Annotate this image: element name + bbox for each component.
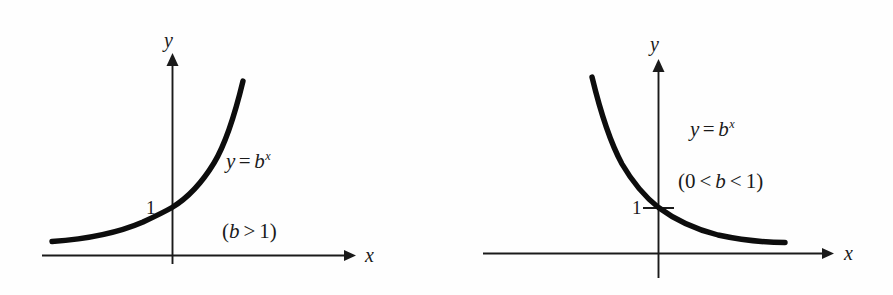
equation-lhs-left: y — [226, 149, 236, 173]
x-axis-arrowhead-right — [822, 248, 834, 259]
condition-operator1-right: < — [696, 169, 716, 193]
y-axis-label-right: y — [650, 34, 659, 54]
graph-svg-left — [0, 0, 446, 295]
x-axis-label-right: x — [844, 243, 853, 263]
y-intercept-tick-label-left: 1 — [146, 198, 156, 217]
condition-lower-bound-right: 0 — [685, 169, 696, 193]
condition-operator-left: > — [240, 219, 260, 243]
equation-operator-left: = — [236, 149, 254, 173]
y-axis-label-left: y — [164, 30, 173, 50]
equation-base-left: b — [254, 149, 265, 173]
graph-panel-decreasing: y x 1 y=bx (0<b<1) — [446, 0, 893, 295]
condition-close-paren-right: ) — [756, 169, 763, 193]
equation-operator-right: = — [700, 117, 718, 141]
x-axis-label-left: x — [365, 245, 374, 265]
condition-upper-bound-right: 1 — [746, 169, 757, 193]
equation-exponent-left: x — [265, 149, 270, 163]
equation-label-left: y=bx — [226, 150, 271, 172]
condition-operator2-right: < — [726, 169, 746, 193]
equation-lhs-right: y — [690, 117, 700, 141]
y-intercept-tick-label-right: 1 — [632, 198, 642, 217]
condition-close-paren-left: ) — [270, 219, 277, 243]
y-axis-arrowhead-left — [167, 53, 179, 66]
condition-open-paren-left: ( — [222, 219, 229, 243]
equation-label-right: y=bx — [690, 118, 735, 140]
condition-label-left: (b>1) — [222, 221, 277, 242]
equation-base-right: b — [718, 117, 729, 141]
condition-open-paren-right: ( — [678, 169, 685, 193]
figure-container: y x 1 y=bx (b>1) y x 1 y=bx — [0, 0, 893, 295]
condition-value-left: 1 — [259, 219, 270, 243]
y-axis-arrowhead-right — [653, 59, 665, 72]
graph-svg-right — [446, 0, 893, 295]
exponential-curve-decreasing — [592, 77, 785, 243]
equation-exponent-right: x — [729, 117, 734, 131]
condition-base-left: b — [229, 219, 240, 243]
condition-base-right: b — [715, 169, 726, 193]
condition-label-right: (0<b<1) — [678, 171, 763, 192]
graph-panel-increasing: y x 1 y=bx (b>1) — [0, 0, 446, 295]
x-axis-arrowhead-left — [344, 250, 356, 261]
